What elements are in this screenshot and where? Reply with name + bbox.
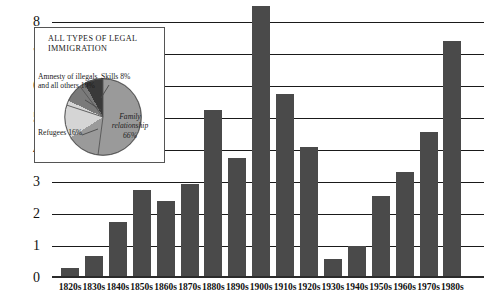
pie-label-skills: Skills 8%: [101, 72, 147, 81]
bar-1910s: [276, 94, 294, 278]
pie-label-family: Family relationship 66%: [105, 112, 155, 140]
legend-inset-panel: ALL TYPES OF LEGAL IMMIGRATION Amnesty o…: [34, 27, 165, 163]
immigration-bar-chart: 012345678 1820s1830s1840s1850s1860s1870s…: [0, 0, 490, 300]
pie-label-refugees: Refugees 16%: [38, 128, 86, 137]
bar-1920s: [300, 147, 318, 278]
bar-1950s: [372, 196, 390, 278]
bar-1900s: [252, 6, 270, 278]
y-tick-label-2: 2: [18, 207, 40, 221]
pie-label-amnesty: Amnesty of illegals and all others 10%: [38, 72, 98, 91]
bar-1830s: [85, 256, 103, 278]
bar-1960s: [396, 172, 414, 278]
y-tick-label-1: 1: [18, 239, 40, 253]
legend-title: ALL TYPES OF LEGAL IMMIGRATION: [48, 34, 160, 55]
bar-1840s: [109, 222, 127, 278]
bar-1860s: [157, 201, 175, 278]
y-tick-label-3: 3: [18, 175, 40, 189]
bar-1850s: [133, 190, 151, 278]
bar-1870s: [181, 184, 199, 278]
bar-1970s: [420, 132, 438, 278]
bar-1880s: [204, 110, 222, 278]
x-axis-baseline: [52, 276, 484, 278]
x-tick-label-1980s: 1980s: [432, 283, 472, 293]
bar-1890s: [228, 158, 246, 278]
bar-1940s: [348, 246, 366, 278]
y-tick-label-0: 0: [18, 271, 40, 285]
bar-1980s: [443, 41, 461, 278]
